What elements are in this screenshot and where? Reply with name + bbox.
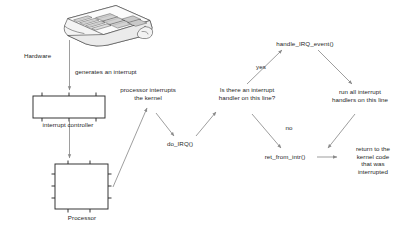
do-irq-label: do_IRQ() bbox=[155, 140, 205, 148]
processor-interrupts-the-kernel-label: processor interrupts the kernel bbox=[104, 86, 192, 101]
interrupt-controller-label: interrupt controller bbox=[8, 121, 128, 129]
edge-handle-irq-event-to-run-handlers bbox=[318, 50, 352, 84]
yes-label: yes bbox=[248, 63, 274, 71]
edge-run-handlers-to-return bbox=[328, 114, 355, 148]
diagram-canvas: Hardware generates an interrupt interrup… bbox=[0, 0, 416, 239]
ret-from-intr-label: ret_from_intr() bbox=[252, 153, 318, 161]
edge-do-irq-to-decision bbox=[196, 112, 216, 136]
hardware-label: Hardware bbox=[24, 52, 74, 60]
return-to-kernel-code-label: return to the kernel code that was inter… bbox=[341, 145, 405, 175]
processor-chip-icon bbox=[52, 161, 112, 213]
handle-irq-event-label: handle_IRQ_event() bbox=[257, 40, 353, 48]
generates-an-interrupt-label: generates an interrupt bbox=[75, 68, 179, 76]
decision-label: Is there an interrupt handler on this li… bbox=[194, 86, 300, 101]
keyboard-icon bbox=[64, 6, 153, 47]
no-label: no bbox=[277, 124, 301, 132]
diagram-graphics bbox=[0, 0, 416, 239]
interrupt-controller-chip-icon bbox=[33, 93, 105, 122]
run-all-handlers-label: run all interrupt handlers on this line bbox=[308, 88, 412, 103]
edge-processor-to-kernel-text bbox=[113, 108, 147, 187]
edge-kernel-text-to-do-irq bbox=[156, 113, 174, 136]
processor-label: Processor bbox=[23, 214, 141, 222]
